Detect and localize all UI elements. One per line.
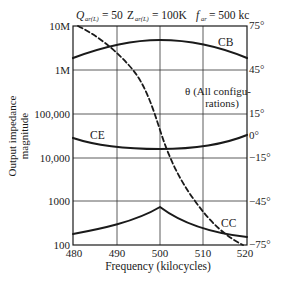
y-axis-label-line2: magnitude — [18, 113, 30, 160]
y-axis-label-line1: Output impedance — [6, 95, 18, 176]
y-tick: 10M — [49, 20, 70, 32]
x-tick: 480 — [66, 247, 83, 259]
z-subscript: ar(L) — [135, 15, 149, 23]
z-symbol: Z — [127, 9, 134, 21]
y-tick: 1000 — [48, 195, 71, 207]
y2-tick: −45° — [249, 195, 271, 207]
z-value: = 100K — [152, 9, 188, 21]
y2-tick: 75° — [249, 19, 264, 31]
impedance-chart: Q ar(L) = 50 Z ar(L) = 100K f ar = 500 k… — [0, 0, 282, 283]
x-axis-label: Frequency (kilocycles) — [105, 260, 211, 273]
x-tick: 490 — [109, 247, 126, 259]
ce-label: CE — [90, 129, 105, 141]
theta-label-line2: rations) — [205, 97, 239, 110]
x-tick: 500 — [152, 247, 169, 259]
cb-label: CB — [218, 36, 234, 48]
y2-tick: 45° — [249, 63, 264, 75]
y-axis-label: Output impedance magnitude — [6, 95, 30, 176]
y-tick: 10,000 — [40, 152, 71, 164]
x-tick: 510 — [195, 247, 212, 259]
q-subscript: ar(L) — [85, 15, 99, 23]
q-value: = 50 — [102, 9, 123, 21]
f-value: = 500 kc — [209, 9, 249, 21]
y2-tick: 15° — [249, 107, 264, 119]
y-tick: 1M — [55, 64, 71, 76]
y-axis-ticks: 10M 1M 100,000 10,000 1000 100 — [34, 20, 70, 251]
y-tick: 100,000 — [34, 108, 70, 120]
y2-tick: −15° — [249, 151, 271, 163]
f-subscript: ar — [201, 15, 207, 22]
y2-tick: 0° — [249, 129, 259, 141]
y2-axis-ticks: 75° 45° 15° 0° −15° −45° −75° — [249, 19, 271, 250]
chart-title: Q ar(L) = 50 Z ar(L) = 100K f ar = 500 k… — [76, 9, 249, 23]
q-symbol: Q — [76, 9, 85, 21]
cc-label: CC — [221, 217, 237, 229]
x-tick: 520 — [237, 247, 254, 259]
x-axis-ticks: 480 490 500 510 520 — [66, 247, 254, 259]
